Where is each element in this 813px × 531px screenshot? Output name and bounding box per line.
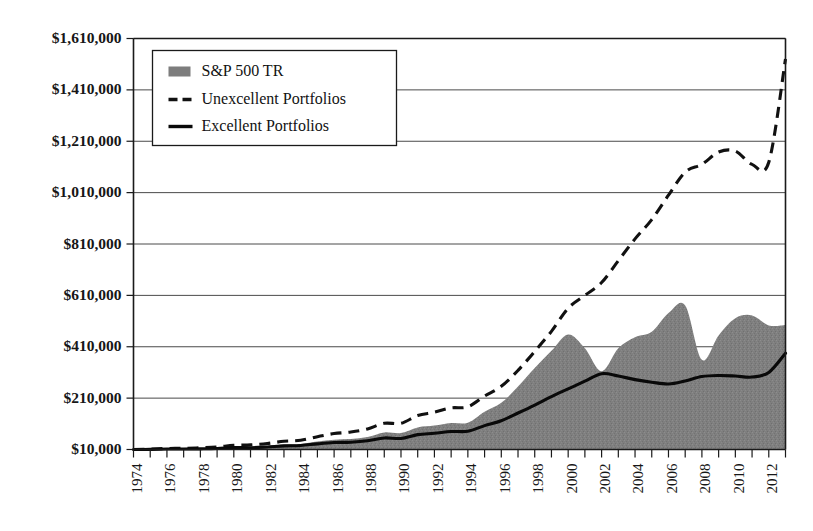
x-axis-tick-label: 1998: [530, 464, 546, 494]
y-axis-tick-label: $10,000: [71, 440, 122, 457]
x-axis-tick-label: 1994: [463, 463, 479, 494]
x-axis-tick-label: 1978: [196, 464, 212, 494]
x-axis-tick-label: 1988: [363, 464, 379, 494]
legend-entry-label: S&P 500 TR: [202, 62, 284, 79]
chart-container: $10,000$210,000$410,000$610,000$810,000$…: [0, 0, 813, 531]
x-axis-tick-label: 1984: [296, 463, 312, 494]
x-axis-tick-label: 2010: [731, 464, 747, 494]
x-axis-tick-label: 1996: [497, 463, 513, 494]
x-axis-tick-label: 1982: [263, 464, 279, 494]
x-axis-tick-label: 2002: [597, 464, 613, 494]
legend-entry-label: Unexcellent Portfolios: [202, 90, 346, 107]
x-axis-tick-label: 1992: [430, 464, 446, 494]
chart-background: [0, 0, 813, 531]
x-axis-tick-label: 1980: [229, 464, 245, 494]
chart-figure: $10,000$210,000$410,000$610,000$810,000$…: [0, 0, 813, 531]
x-axis-tick-label: 2004: [630, 463, 646, 494]
y-axis-tick-label: $1,010,000: [52, 183, 122, 200]
y-axis-tick-label: $810,000: [63, 235, 121, 252]
x-axis-tick-label: 2012: [764, 464, 780, 494]
legend-swatch-area: [169, 67, 191, 77]
y-axis-tick-label: $410,000: [63, 337, 121, 354]
x-axis-tick-label: 2006: [664, 463, 680, 494]
y-axis-tick-label: $1,410,000: [52, 80, 122, 97]
x-axis-tick-label: 1990: [396, 464, 412, 494]
x-axis-tick-label: 1974: [129, 463, 145, 494]
x-axis-tick-label: 2008: [697, 464, 713, 494]
chart-legend: S&P 500 TRUnexcellent PortfoliosExcellen…: [153, 51, 397, 146]
x-axis-tick-label: 1986: [330, 463, 346, 494]
legend-entry-label: Excellent Portfolios: [202, 117, 330, 134]
x-axis-tick-label: 2000: [564, 464, 580, 494]
y-axis-tick-label: $610,000: [63, 286, 121, 303]
y-axis-tick-label: $1,210,000: [52, 132, 122, 149]
y-axis-tick-label: $210,000: [63, 389, 121, 406]
y-axis-tick-label: $1,610,000: [52, 29, 122, 46]
x-axis-tick-label: 1976: [162, 463, 178, 494]
